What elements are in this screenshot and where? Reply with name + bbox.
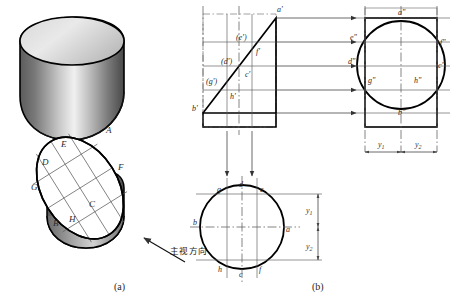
front-to-top-projection-arrows: [227, 131, 252, 176]
pictorial-panel: A E D F G C B H: [19, 17, 185, 262]
caption-a: (a): [114, 281, 125, 292]
side-label-b-dprime: b": [398, 108, 406, 117]
top-label-b: b: [193, 218, 197, 227]
technical-drawing-figure: A E D F G C B H: [0, 0, 462, 308]
side-label-g-dprime: g": [368, 76, 376, 85]
front-label-c-prime: c': [245, 70, 251, 79]
top-label-g: g: [217, 185, 221, 194]
top-view-labels: g d e b a h c f: [193, 180, 290, 279]
point-label-B: B: [53, 218, 59, 228]
point-label-D: D: [41, 157, 49, 167]
front-label-b-prime: b': [192, 104, 198, 113]
orthographic-panel: a' (e') f' (d') c' (g') h' b' a" e" f" d…: [190, 5, 450, 282]
point-label-G: G: [31, 182, 38, 192]
side-label-f-dprime: f": [440, 38, 446, 47]
top-label-e: e: [260, 185, 264, 194]
side-view-dimension-labels: y1 y2: [377, 140, 422, 150]
point-label-F: F: [117, 162, 124, 172]
side-label-c-dprime: c": [438, 61, 446, 70]
point-label-H: H: [68, 214, 76, 224]
top-label-c: c: [239, 270, 243, 279]
front-label-f-prime: f': [256, 47, 260, 56]
point-label-A: A: [105, 125, 112, 135]
front-label-a-prime: a': [277, 5, 283, 14]
side-view-labels: a" e" f" d" c" g" h" b": [348, 8, 446, 117]
side-label-a-dprime: a": [398, 8, 406, 17]
side-dim-y1: y1: [377, 140, 385, 150]
point-label-E: E: [60, 139, 67, 149]
point-label-C: C: [89, 199, 96, 209]
side-label-e-dprime: e": [350, 33, 358, 42]
upper-top-ellipse: [20, 17, 124, 65]
side-dim-y2: y2: [414, 140, 422, 150]
top-label-a: a: [286, 225, 290, 234]
front-label-e-prime: (e'): [236, 33, 247, 42]
front-label-d-prime: (d'): [221, 57, 232, 66]
front-view-triangle: [203, 6, 276, 176]
side-label-d-dprime: d": [348, 57, 356, 66]
cylinder-truncated-upper: [20, 17, 124, 140]
front-view-labels: a' (e') f' (d') c' (g') h' b': [192, 5, 283, 113]
side-label-h-dprime: h": [414, 76, 422, 85]
top-dim-y2: y2: [305, 242, 313, 252]
view-direction-label: 主视方向: [170, 244, 208, 256]
caption-b: (b): [312, 281, 324, 292]
top-dim-y1: y1: [305, 206, 313, 216]
top-view-dimension-labels: y1 y2: [305, 206, 313, 252]
top-view-circle: [190, 176, 322, 282]
front-view-base: [203, 113, 276, 127]
top-label-h: h: [218, 265, 222, 274]
front-label-h-prime: h': [230, 92, 236, 101]
front-label-g-prime: (g'): [206, 77, 217, 86]
front-to-side-projection-arrows: [277, 18, 356, 113]
side-view-level-lines: [356, 18, 450, 113]
top-label-f: f: [259, 265, 263, 274]
